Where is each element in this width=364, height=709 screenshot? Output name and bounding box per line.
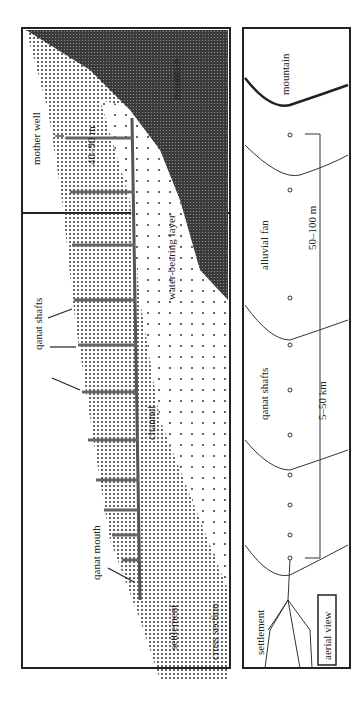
alluvial-fan-label: alluvial fan bbox=[258, 220, 270, 270]
qanat-diagram: mountain mother well 40–90 m water-beari… bbox=[0, 0, 364, 709]
aerial-view-panel bbox=[243, 28, 350, 668]
settlement-label-cross: settlement bbox=[167, 605, 179, 650]
qanat-shafts-label-cross: qanat shafts bbox=[32, 298, 44, 350]
qanat-mouth-label: qanat mouth bbox=[90, 525, 102, 580]
settlement-label-aerial: settlement bbox=[254, 610, 266, 655]
aerial-view-label: aerial view bbox=[321, 611, 333, 660]
cross-section-panel bbox=[22, 28, 230, 680]
mother-well-label: mother well bbox=[30, 112, 42, 165]
mountain-label-cross: mountain bbox=[170, 58, 182, 100]
depth-label: 40–90 m bbox=[85, 126, 97, 165]
cross-section-label: cross section bbox=[208, 603, 220, 660]
mountain-label-aerial: mountain bbox=[279, 53, 291, 95]
qanat-shafts-label-aerial: qanat shafts bbox=[258, 368, 270, 420]
length-label: 5–50 km bbox=[316, 381, 328, 420]
shaft-spacing-label: 50–100 m bbox=[306, 205, 318, 250]
channel-label: channel bbox=[145, 406, 157, 440]
water-layer-label: water-bearing layer bbox=[165, 214, 177, 300]
